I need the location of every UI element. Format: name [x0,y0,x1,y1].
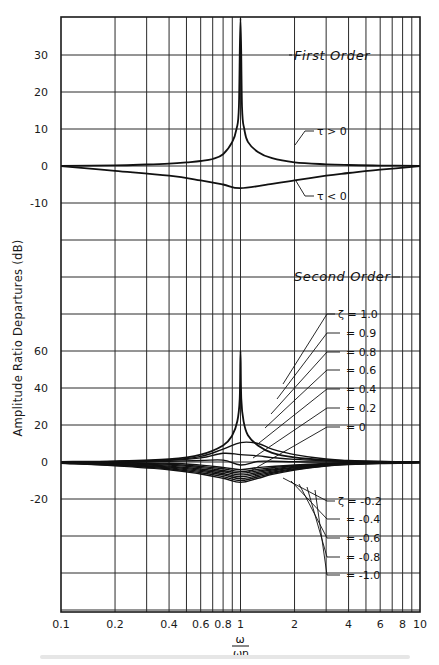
x-tick-label: 8 [399,618,406,631]
amplitude-ratio-departure-chart: 0.10.20.40.60.812468103020100-106040200-… [0,0,439,665]
label-zeta-positive: = 0.9 [346,327,376,340]
y-tick-label-first-order: 30 [34,49,48,62]
x-tick-label: 0.8 [214,618,232,631]
y-tick-label-first-order: 10 [34,123,48,136]
label-zeta-negative: = -0.4 [346,513,380,526]
label-zeta-negative: = -0.6 [346,532,380,545]
figure-caption-faded [40,655,410,659]
label-tau-negative: τ < 0 [317,190,347,203]
leader-zeta-positive [259,389,340,443]
x-tick-label: 2 [291,618,298,631]
y-tick-label-first-order: 0 [41,160,48,173]
label-zeta-negative: ζ = -0.2 [338,495,382,508]
label-zeta-negative: = -1.0 [346,569,380,582]
y-tick-label-first-order: 20 [34,86,48,99]
x-tick-label: 1 [237,618,244,631]
label-zeta-positive: = 0 [346,421,366,434]
leader-zeta-negative [283,478,335,501]
label-tau-positive: τ > 0 [317,125,347,138]
leader-tau-positive [295,131,314,145]
leader-tau-negative [296,181,314,196]
leader-zeta-negative [307,487,340,557]
first-order-title: First Order [294,48,371,63]
x-tick-label: 0.2 [106,618,124,631]
y-tick-label-second-order: 60 [34,345,48,358]
y-axis-label: Amplitude Ratio Departures (dB) [11,239,25,436]
x-tick-label: 0.4 [160,618,178,631]
x-tick-label: 0.6 [192,618,210,631]
label-zeta-positive: = 0.6 [346,364,376,377]
x-tick-label: 4 [345,618,352,631]
y-tick-label-second-order: -20 [30,493,48,506]
second-order-title: Second Order [294,269,391,284]
label-zeta-positive: ζ = 1.0 [338,308,378,321]
x-tick-label: 6 [377,618,384,631]
y-tick-label-second-order: 0 [41,456,48,469]
label-zeta-positive: = 0.8 [346,346,376,359]
y-tick-label-second-order: 40 [34,382,48,395]
labels: 0.10.20.40.60.812468103020100-106040200-… [30,49,427,631]
y-tick-label-second-order: 20 [34,419,48,432]
leader-zeta-negative [315,490,340,575]
x-tick-label: 0.1 [52,618,70,631]
label-zeta-positive: = 0.2 [346,402,376,415]
y-tick-label-first-order: -10 [30,197,48,210]
x-tick-label: 10 [413,618,427,631]
label-zeta-negative: = -0.8 [346,551,380,564]
label-zeta-positive: = 0.4 [346,383,376,396]
leader-zeta-negative [291,481,340,519]
leader-zeta-positive [283,314,335,384]
x-axis-label-numerator: ω [235,633,244,646]
